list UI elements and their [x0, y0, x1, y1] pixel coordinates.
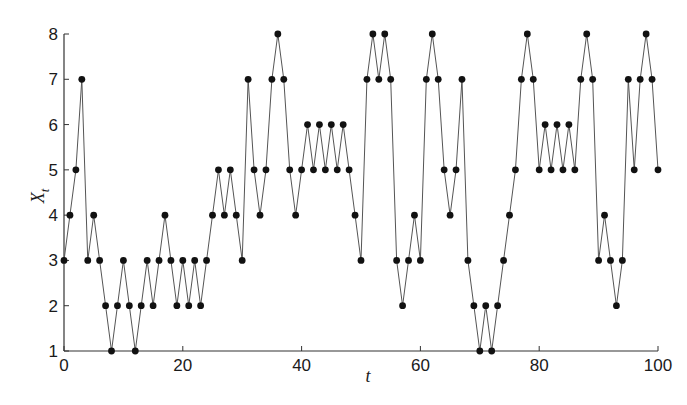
data-point [482, 302, 489, 309]
y-axis-label-subscript: t [37, 188, 52, 192]
data-point [274, 31, 281, 38]
data-point [179, 257, 186, 264]
y-axis-label: Xt [28, 188, 52, 204]
data-point [453, 166, 460, 173]
x-tick-label: 0 [59, 356, 68, 375]
data-point [245, 76, 252, 83]
data-point [150, 302, 157, 309]
data-point [381, 31, 388, 38]
data-point [215, 166, 222, 173]
data-point [78, 76, 85, 83]
data-point [488, 348, 495, 355]
data-point [459, 76, 466, 83]
data-point [494, 302, 501, 309]
data-point [583, 31, 590, 38]
data-point [316, 121, 323, 128]
y-tick-label: 2 [49, 297, 58, 316]
data-point [292, 212, 299, 219]
x-tick-label: 60 [411, 356, 430, 375]
y-tick-label: 5 [49, 161, 58, 180]
data-point [346, 166, 353, 173]
data-point [96, 257, 103, 264]
data-point [637, 76, 644, 83]
data-point [126, 302, 133, 309]
data-point [227, 166, 234, 173]
data-point [393, 257, 400, 264]
data-point [191, 257, 198, 264]
data-point [358, 257, 365, 264]
data-point [90, 212, 97, 219]
data-point [441, 166, 448, 173]
data-point [470, 302, 477, 309]
data-point [429, 31, 436, 38]
data-point [536, 166, 543, 173]
data-point [548, 166, 555, 173]
data-point [251, 166, 258, 173]
data-point [530, 76, 537, 83]
data-point [334, 166, 341, 173]
data-point [625, 76, 632, 83]
data-point [257, 212, 264, 219]
data-point [571, 166, 578, 173]
data-point [108, 348, 115, 355]
data-point [263, 166, 270, 173]
data-point [506, 212, 513, 219]
data-point [120, 257, 127, 264]
data-point [322, 166, 329, 173]
x-axis-label: t [365, 366, 371, 386]
data-point [649, 76, 656, 83]
data-point [340, 121, 347, 128]
data-point [417, 257, 424, 264]
data-point [173, 302, 180, 309]
data-point [197, 302, 204, 309]
data-point [102, 302, 109, 309]
data-point [447, 212, 454, 219]
x-tick-label: 100 [644, 356, 672, 375]
data-point [203, 257, 210, 264]
data-point [209, 212, 216, 219]
data-point [364, 76, 371, 83]
data-point [280, 76, 287, 83]
data-point [619, 257, 626, 264]
data-point [310, 166, 317, 173]
data-point [185, 302, 192, 309]
data-point [643, 31, 650, 38]
data-point [518, 76, 525, 83]
data-point [61, 257, 68, 264]
y-tick-label: 4 [49, 206, 58, 225]
data-point [304, 121, 311, 128]
y-tick-label: 6 [49, 116, 58, 135]
data-point [476, 348, 483, 355]
data-point [298, 166, 305, 173]
data-point [352, 212, 359, 219]
data-point [631, 166, 638, 173]
data-point [72, 166, 79, 173]
data-point [132, 348, 139, 355]
data-point [423, 76, 430, 83]
data-point [589, 76, 596, 83]
data-point [162, 212, 169, 219]
series-markers [61, 31, 662, 355]
data-point [524, 31, 531, 38]
data-point [655, 166, 662, 173]
data-point [566, 121, 573, 128]
data-point [512, 166, 519, 173]
data-point [554, 121, 561, 128]
data-point [613, 302, 620, 309]
data-point [84, 257, 91, 264]
x-tick-label: 80 [530, 356, 549, 375]
data-point [560, 166, 567, 173]
data-point [168, 257, 175, 264]
data-point [577, 76, 584, 83]
data-point [67, 212, 74, 219]
data-point [233, 212, 240, 219]
data-point [465, 257, 472, 264]
data-point [156, 257, 163, 264]
data-point [411, 212, 418, 219]
x-tick-label: 40 [292, 356, 311, 375]
data-point [114, 302, 121, 309]
x-tick-label: 20 [173, 356, 192, 375]
y-tick-label: 8 [49, 25, 58, 44]
data-point [221, 212, 228, 219]
data-point [601, 212, 608, 219]
